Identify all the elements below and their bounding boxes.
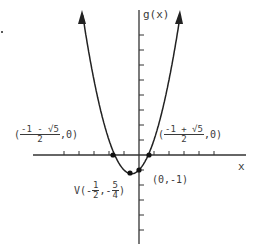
x-axis-label: x: [238, 161, 245, 172]
y-axis-ticks: [139, 35, 144, 230]
parabola-curve: [83, 15, 180, 174]
y-intercept-point: [136, 167, 141, 172]
left-root-label: (-1 - √52,0): [14, 125, 78, 144]
right-arrow-icon: [175, 10, 183, 24]
vertex-point: [127, 170, 132, 175]
y-intercept-label: (0,-1): [152, 175, 188, 185]
y-axis-label: g(x): [143, 9, 170, 20]
right-root-point: [146, 152, 151, 157]
vertex-label: V(-12,-54): [74, 181, 125, 200]
stray-mark: [1, 31, 3, 33]
right-root-label: (-1 + √52,0): [158, 125, 222, 144]
left-arrow-icon: [78, 10, 86, 24]
parabola-graph: [0, 0, 253, 244]
left-root-point: [110, 152, 115, 157]
